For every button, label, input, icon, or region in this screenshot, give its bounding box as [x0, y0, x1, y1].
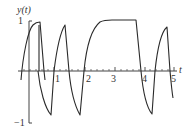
x-tick-label-2: 2	[86, 73, 91, 84]
x-tick-label-1: 1	[55, 73, 60, 84]
y-tick-label-bottom: −1	[14, 117, 25, 128]
y-axis	[29, 21, 32, 123]
x-tick-label-5: 5	[171, 73, 176, 84]
x-axis-label: t	[179, 64, 182, 75]
x-tick-label-3: 3	[111, 73, 116, 84]
y-tick-label-top: 1	[18, 15, 23, 26]
response-curve	[21, 20, 173, 115]
response-chart: y(t) 1 −1 t 1 2 3 4 5	[0, 0, 189, 133]
